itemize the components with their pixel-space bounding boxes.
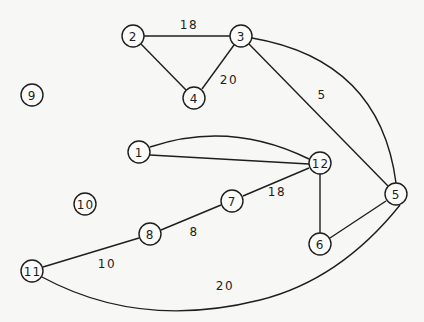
edge-11-5 — [42, 205, 400, 311]
edge-1-12 — [150, 136, 309, 159]
edge-weight-3-5: 5 — [317, 88, 326, 102]
node-1: 1 — [128, 141, 150, 163]
edge-weight-12-7: 18 — [268, 185, 286, 199]
node-label: 8 — [146, 228, 155, 242]
node-6: 6 — [309, 233, 331, 255]
graph-diagram: 182051881020 123456789101112 — [0, 0, 424, 322]
edge-8-11 — [43, 238, 139, 267]
node-7: 7 — [221, 190, 243, 212]
node-5: 5 — [385, 183, 407, 205]
edge-weight-2-3: 18 — [180, 18, 198, 32]
edge-2-4 — [141, 44, 186, 90]
edge-1-12 — [150, 155, 309, 164]
edge-weight-7-8: 8 — [189, 225, 198, 239]
edge-weight-3-4: 20 — [220, 73, 238, 87]
node-9: 9 — [21, 84, 43, 106]
node-label: 4 — [190, 92, 199, 106]
node-12: 12 — [309, 152, 331, 174]
node-10: 10 — [74, 193, 96, 215]
node-4: 4 — [183, 87, 205, 109]
node-11: 11 — [21, 260, 43, 282]
node-label: 7 — [228, 195, 237, 209]
node-label: 9 — [28, 89, 37, 103]
node-3: 3 — [230, 25, 252, 47]
node-label: 11 — [24, 265, 41, 279]
nodes-layer: 123456789101112 — [21, 25, 407, 282]
node-label: 12 — [312, 157, 329, 171]
node-label: 3 — [237, 30, 246, 44]
node-2: 2 — [122, 25, 144, 47]
edge-6-5 — [330, 201, 386, 238]
node-label: 1 — [135, 146, 144, 160]
node-8: 8 — [139, 223, 161, 245]
edge-weight-8-11: 10 — [98, 257, 116, 271]
node-label: 5 — [392, 188, 401, 202]
node-label: 2 — [129, 30, 138, 44]
node-label: 10 — [77, 198, 94, 212]
node-label: 6 — [316, 238, 325, 252]
edge-weight-11-5: 20 — [216, 279, 234, 293]
